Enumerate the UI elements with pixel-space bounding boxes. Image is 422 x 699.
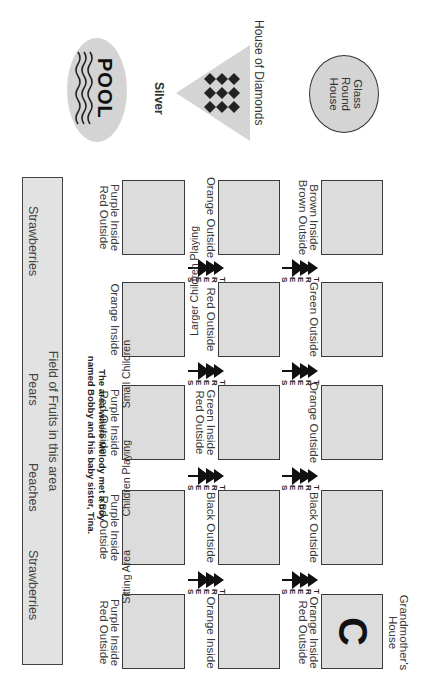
tree-icon bbox=[280, 466, 320, 486]
house-lot-top-2[interactable] bbox=[321, 282, 383, 357]
fruit-strawberries-1: Strawberries bbox=[26, 206, 40, 276]
house-lot-middle-4[interactable] bbox=[218, 490, 280, 565]
house-lot-top-3[interactable] bbox=[321, 385, 383, 460]
house-label-bottom-5: Purple InsideRed Outside bbox=[98, 585, 120, 680]
trees-label-8: TREES bbox=[186, 589, 226, 599]
area-label-sitting-area: Sitting Area bbox=[120, 550, 132, 604]
field-title: Field of Fruits in this area bbox=[46, 178, 60, 664]
area-label-larger-children: Larger Children Playing bbox=[188, 226, 200, 336]
house-lot-middle-1[interactable] bbox=[218, 180, 280, 255]
tree-icon bbox=[186, 466, 226, 486]
house-lot-middle-3[interactable] bbox=[218, 385, 280, 460]
fruit-pears: Pears bbox=[26, 373, 40, 406]
trees-label-2: TREES bbox=[280, 380, 320, 390]
house-of-diamonds-triangle-icon bbox=[172, 43, 252, 143]
tree-icon bbox=[280, 258, 320, 278]
pool-label: POOL bbox=[93, 58, 116, 119]
house-label-bottom-1: Purple InsideRed Outside bbox=[98, 170, 120, 265]
tree-icon bbox=[186, 570, 226, 590]
house-label-top-1: Brown InsideBrown Outside bbox=[297, 170, 319, 265]
area-label-children-playing: Children Playing bbox=[120, 440, 132, 516]
tree-icon bbox=[186, 361, 226, 381]
glass-round-house-label: Glass Round House bbox=[328, 55, 364, 133]
house-label-middle-1: Orange Outside bbox=[205, 170, 216, 265]
house-lot-bottom-5[interactable] bbox=[122, 594, 185, 669]
grandmothers-house-letter: C bbox=[328, 594, 378, 669]
neighborhood-map: Glass Round House House of Diamonds Silv… bbox=[0, 0, 422, 699]
story-note: The area where Melody met a boy named Bo… bbox=[86, 320, 108, 570]
pool-waves-icon bbox=[74, 50, 94, 130]
fruit-peaches: Peaches bbox=[26, 463, 40, 512]
house-label-bottom-2: Orange Inside bbox=[109, 272, 120, 367]
trees-label-7: TREES bbox=[186, 485, 226, 495]
tree-icon bbox=[280, 361, 320, 381]
area-label-small-children: Small Children bbox=[120, 340, 132, 408]
field-of-fruits[interactable]: Field of Fruits in this area Strawberrie… bbox=[22, 177, 63, 665]
house-lot-middle-2[interactable] bbox=[218, 282, 280, 357]
house-lot-top-4[interactable] bbox=[321, 490, 383, 565]
grandmothers-house-label: Grandmother'sHouse bbox=[387, 585, 409, 680]
trees-label-1: TREES bbox=[280, 277, 320, 287]
trees-label-6: TREES bbox=[186, 380, 226, 390]
house-lot-top-1[interactable] bbox=[321, 180, 383, 255]
trees-label-3: TREES bbox=[280, 485, 320, 495]
house-of-diamonds-label: House of Diamonds bbox=[252, 20, 266, 125]
house-lot-bottom-1[interactable] bbox=[122, 180, 185, 255]
house-lot-middle-5[interactable] bbox=[218, 594, 280, 669]
fruit-strawberries-2: Strawberries bbox=[26, 550, 40, 620]
trees-label-4: TREES bbox=[280, 589, 320, 599]
tree-icon bbox=[280, 570, 320, 590]
house-label-middle-5: Orange Inside bbox=[205, 585, 216, 680]
house-of-diamonds-sublabel: Silver bbox=[152, 82, 166, 115]
house-label-top-5: Orange InsideRed Outside bbox=[297, 585, 319, 680]
